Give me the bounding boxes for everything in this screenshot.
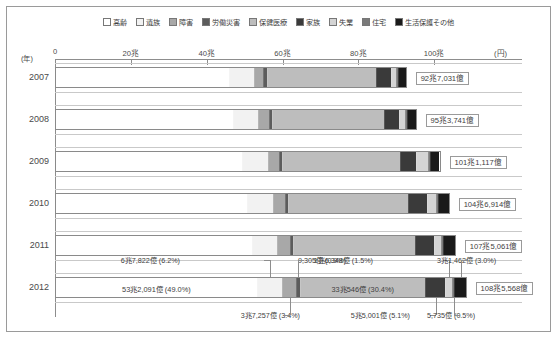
row-separator [55, 105, 522, 106]
bar-segment[interactable] [415, 236, 435, 255]
bar-row: 2010104兆6,914億 [55, 193, 510, 214]
year-axis-label: 2008 [9, 114, 49, 124]
legend-swatch-icon [136, 18, 144, 26]
axis-tick-label: 40兆 [198, 47, 214, 58]
bar-segment[interactable] [407, 110, 415, 129]
bar-segment[interactable] [56, 110, 233, 129]
bar-total-label: 95兆3,741億 [426, 114, 479, 128]
legend-item-label: 家族 [306, 17, 320, 27]
row-separator [55, 147, 522, 148]
legend-item[interactable]: 失業 [329, 17, 353, 27]
bar-segment[interactable] [427, 194, 436, 213]
year-axis-label: 2011 [9, 240, 49, 250]
row-separator [55, 63, 522, 64]
bar-segment[interactable] [257, 278, 283, 297]
bar-segment[interactable] [56, 68, 229, 87]
bar-row: 201253兆2,091億 (49.0%)33兆546億 (30.4%)108兆… [55, 277, 510, 298]
stacked-bar[interactable]: 53兆2,091億 (49.0%)33兆546億 (30.4%) [55, 277, 467, 298]
bar-segment[interactable] [400, 152, 417, 171]
bar-segment[interactable] [416, 152, 428, 171]
chart-frame: 高齢遺族障害労働災害保健医療家族失業住宅生活保護その他 (年) 020兆40兆6… [6, 6, 551, 332]
stacked-bar[interactable] [55, 151, 441, 172]
callout-leader-line [461, 260, 467, 261]
legend-item-label: 遺族 [146, 17, 160, 27]
row-separator [55, 218, 522, 219]
row-separator [55, 92, 522, 93]
axis-year-unit: (年) [21, 52, 33, 63]
bar-segment[interactable] [268, 152, 279, 171]
bar-segment[interactable] [282, 278, 296, 297]
stacked-bar[interactable] [55, 235, 456, 256]
bar-segment[interactable] [267, 68, 376, 87]
legend-item[interactable]: 生活保護その他 [395, 17, 454, 27]
bar-segment[interactable] [438, 194, 449, 213]
year-axis-label: 2007 [9, 72, 49, 82]
axis-tick-label: 0 [53, 47, 57, 56]
legend-item[interactable]: 保健医療 [249, 17, 287, 27]
legend-item-label: 労働災害 [212, 17, 240, 27]
stacked-bar[interactable] [55, 109, 417, 130]
bar-segment[interactable] [384, 110, 399, 129]
row-separator [55, 302, 522, 303]
axis-tick-label: 20兆 [123, 47, 139, 58]
bar-segment[interactable] [272, 110, 384, 129]
segment-callout-label: 5,735億 (0.5%) [427, 312, 475, 319]
bar-total-label: 104兆6,914億 [459, 198, 517, 212]
axis-value-unit: (円) [494, 47, 507, 58]
segment-callout-label: 3兆7,257億 (3.4%) [241, 312, 300, 319]
bar-segment[interactable] [282, 152, 399, 171]
bar-segment[interactable] [56, 194, 247, 213]
legend-item[interactable]: 高齢 [103, 17, 127, 27]
year-axis-label: 2009 [9, 156, 49, 166]
legend-item-label: 高齢 [113, 17, 127, 27]
bar-segment[interactable] [277, 236, 290, 255]
bar-row: 200792兆7,031億 [55, 67, 510, 88]
bar-segment[interactable] [376, 68, 391, 87]
legend-item[interactable]: 遺族 [136, 17, 160, 27]
bar-segment[interactable] [408, 194, 427, 213]
bar-row: 2009101兆1,117億 [55, 151, 510, 172]
callout-leader-line [298, 260, 304, 261]
bar-segment[interactable] [430, 152, 439, 171]
stacked-bar[interactable] [55, 67, 407, 88]
legend-swatch-icon [202, 18, 210, 26]
bar-row: 2011107兆5,061億 [55, 235, 510, 256]
bar-segment[interactable] [425, 278, 446, 297]
axis-line [55, 59, 522, 60]
bar-segment[interactable] [56, 236, 252, 255]
bar-segment[interactable]: 33兆546億 (30.4%) [300, 278, 425, 297]
year-axis-label: 2012 [9, 282, 49, 292]
bar-row: 200895兆3,741億 [55, 109, 510, 130]
bar-segment[interactable] [293, 236, 414, 255]
bar-segment[interactable] [273, 194, 285, 213]
callout-leader-line [454, 315, 460, 316]
bar-segment[interactable] [233, 110, 258, 129]
bar-segment[interactable] [398, 68, 406, 87]
bar-segment[interactable] [443, 236, 454, 255]
bar-segment[interactable]: 53兆2,091億 (49.0%) [56, 278, 257, 297]
bar-segment[interactable] [242, 152, 267, 171]
bar-segment[interactable] [434, 236, 441, 255]
row-separator [55, 231, 522, 232]
legend-item[interactable]: 住宅 [362, 17, 386, 27]
callout-leader-line [298, 260, 299, 277]
legend-item[interactable]: 労働災害 [202, 17, 240, 27]
bar-segment[interactable] [252, 236, 277, 255]
bar-segment[interactable] [229, 68, 254, 87]
legend-swatch-icon [329, 18, 337, 26]
row-separator [55, 189, 522, 190]
bar-segment[interactable] [56, 152, 242, 171]
legend-swatch-icon [362, 18, 370, 26]
bar-segment[interactable] [288, 194, 408, 213]
segment-value-label: 53兆2,091億 (49.0%) [122, 282, 191, 293]
bar-segment[interactable] [454, 278, 466, 297]
bar-segment[interactable] [258, 110, 269, 129]
legend-item[interactable]: 家族 [296, 17, 320, 27]
bar-total-label: 107兆5,061億 [465, 240, 523, 254]
stacked-bar[interactable] [55, 193, 450, 214]
bar-segment[interactable] [254, 68, 264, 87]
callout-leader-line [461, 260, 462, 277]
legend-item[interactable]: 障害 [169, 17, 193, 27]
bar-segment[interactable] [247, 194, 272, 213]
segment-callout-label: 1兆6,348億 (1.5%) [314, 257, 373, 264]
